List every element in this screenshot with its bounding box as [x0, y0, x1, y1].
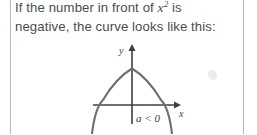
page-rule-left — [10, 0, 11, 134]
x-axis-arrowhead — [174, 102, 181, 109]
inequality-label: a < 0 — [136, 112, 160, 124]
y-axis-label: y — [118, 45, 124, 56]
scan-smudge — [208, 70, 217, 80]
caption-text: If the number in front of x2 is negative… — [15, 0, 230, 36]
x-axis-label: x — [178, 108, 184, 119]
page-rule-right — [243, 0, 244, 134]
caption-line1-prefix: If the number in front of — [15, 0, 158, 15]
caption-line2: negative, the curve looks like this: — [15, 19, 216, 34]
caption-line1-suffix: is — [168, 0, 182, 15]
parabola-curve — [92, 69, 172, 135]
y-axis-arrowhead — [129, 44, 136, 51]
screenshot-root: If the number in front of x2 is negative… — [0, 0, 257, 134]
